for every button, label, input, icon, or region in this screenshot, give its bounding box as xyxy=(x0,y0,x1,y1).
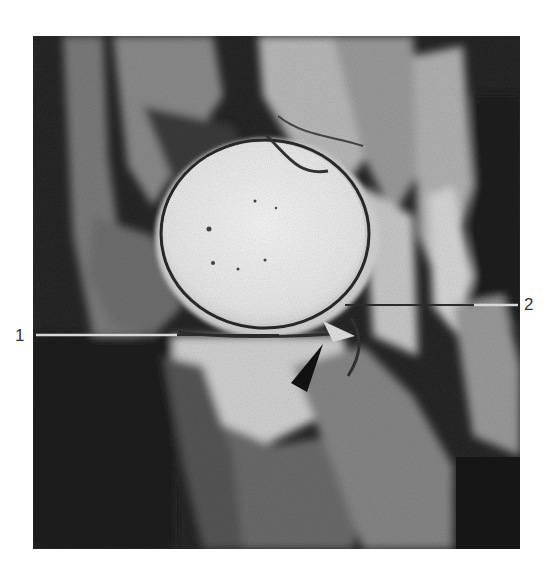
annotation-overlay xyxy=(0,0,556,575)
mri-figure: 1 2 xyxy=(0,0,556,575)
annotation-label-1: 1 xyxy=(15,327,24,344)
arrowhead-marker xyxy=(291,344,323,392)
annotation-label-2: 2 xyxy=(524,296,533,313)
